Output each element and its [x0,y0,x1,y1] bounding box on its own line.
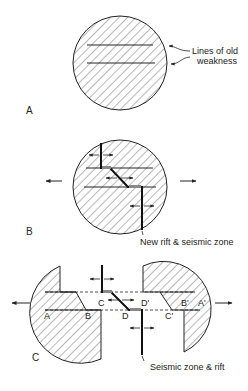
point-label-b: B [85,311,91,321]
panel-label-c: C [32,352,39,363]
annotation-new-rift: New rift & seismic zone [140,237,234,247]
leader-c [142,356,144,361]
panel-b: B New rift & seismic zone [26,140,234,247]
leader-curve-lower [171,57,190,64]
point-label-a-prime: A' [198,298,206,308]
annotation-lines-of-old: Lines of old [192,46,238,56]
leader-b [142,231,143,235]
transform-segment-upper-c [103,290,112,293]
panel-c: A B C D D' C' B' A' C Seismic zone & rif… [12,261,232,372]
leader-curve-upper [169,46,190,51]
annotation-seismic-zone: Seismic zone & rift [150,362,225,372]
transform-segment-lower-b [129,185,141,188]
point-label-a: A [44,311,50,321]
point-label-d: D [122,311,129,321]
panel-label-a: A [26,105,33,116]
transform-segment-upper-b [102,166,111,169]
point-label-d-prime: D' [141,298,149,308]
rift-diagram: Lines of old weakness A B New rift & sei… [0,0,248,391]
point-label-b-prime: B' [181,298,189,308]
panel-label-b: B [26,226,33,237]
point-label-c: C [98,298,105,308]
transform-segment-lower-c [130,308,141,311]
panel-a: Lines of old weakness A [26,16,238,116]
annotation-weakness: weakness [196,56,238,66]
point-label-c-prime: C' [165,311,173,321]
